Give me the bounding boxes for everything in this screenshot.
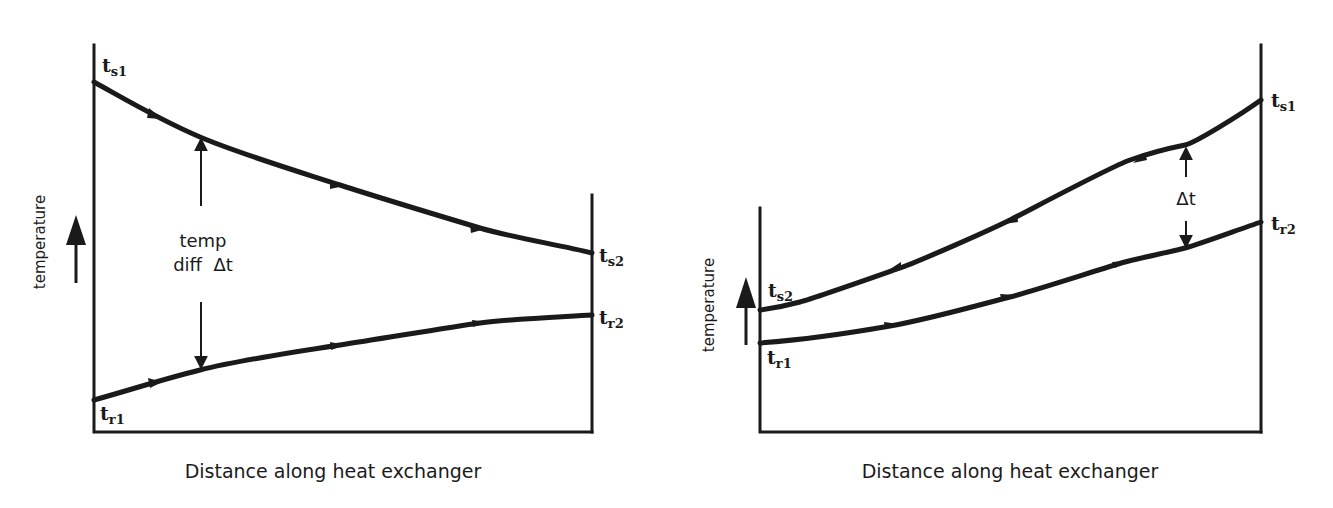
flow-arrow-icon xyxy=(1004,214,1018,224)
label-tr1: tr1 xyxy=(100,402,125,427)
label-ts1: ts1 xyxy=(102,54,127,79)
label-tr2: tr2 xyxy=(1271,212,1296,237)
y-axis-title: temperature xyxy=(700,258,718,352)
delta-t-label-line1: temp xyxy=(179,230,226,251)
y-axis-title: temperature xyxy=(31,195,49,289)
temperature-up-arrow-icon xyxy=(66,215,86,283)
flow-direction-arrows xyxy=(884,153,1147,329)
label-ts2: ts2 xyxy=(599,244,624,269)
label-tr2: tr2 xyxy=(599,306,624,331)
x-axis-title: Distance along heat exchanger xyxy=(185,460,482,482)
supply-curve xyxy=(94,82,592,253)
label-tr1: tr1 xyxy=(767,346,792,371)
heat-exchanger-figure: temp diff Δt ts1 ts2 tr1 tr2 temperature… xyxy=(0,0,1333,508)
parallel-flow-diagram: temp diff Δt ts1 ts2 tr1 tr2 temperature… xyxy=(31,45,624,482)
temperature-up-arrow-icon xyxy=(736,277,756,345)
counter-flow-diagram: Δt ts1 tr2 ts2 tr1 temperature Distance … xyxy=(700,45,1296,482)
return-curve xyxy=(94,315,592,400)
x-axis-title: Distance along heat exchanger xyxy=(862,460,1159,482)
label-ts2: ts2 xyxy=(768,279,793,304)
delta-t-label: Δt xyxy=(1176,188,1195,209)
flow-arrow-icon xyxy=(147,108,162,119)
delta-t-label-line2: diff Δt xyxy=(173,254,233,275)
label-ts1: ts1 xyxy=(1271,89,1296,114)
